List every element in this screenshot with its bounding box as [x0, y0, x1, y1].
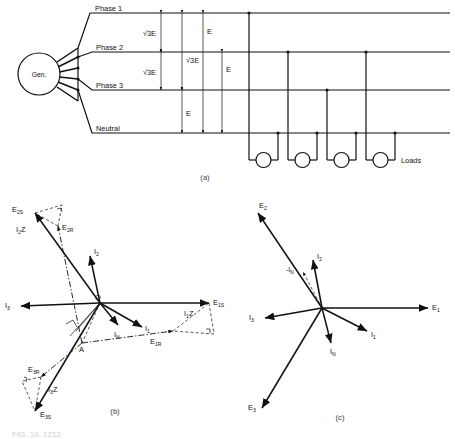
- right-angle-mark-2: [57, 208, 62, 212]
- tap-dot: [286, 50, 289, 53]
- drop-label-i2z: I2Z: [16, 225, 26, 235]
- phase-1-label: Phase 1: [95, 4, 122, 13]
- dimension-sqrt3e-p2-p3: √3E: [143, 52, 161, 90]
- figure-root: Gen. Phase 1 Phase 2: [0, 0, 455, 439]
- vector-label-e1r: E1R: [150, 337, 162, 347]
- dimension-label-e-2: E: [207, 27, 212, 36]
- vector-in-c: [322, 308, 331, 343]
- vector-label-i3-b: I3: [5, 301, 10, 311]
- dimension-e-p2-neutral: E: [222, 52, 231, 133]
- drop-label-i3z: I3Z: [48, 385, 58, 395]
- figure-bottom-caption: FIG. 10. 1212: [12, 430, 61, 439]
- right-angle-mark-4: [66, 320, 77, 327]
- vector-label-e1s: E1S: [213, 298, 225, 308]
- vector-e3r: [41, 343, 82, 377]
- drop-i2z-hyp: [35, 213, 58, 226]
- vector-label-e3r: E3R: [28, 365, 40, 375]
- load-circle: [256, 153, 271, 168]
- vector-e3s: [35, 303, 100, 411]
- diagram-a-group: Gen. Phase 1 Phase 2: [18, 4, 450, 183]
- phase-3-conductor: Phase 3: [78, 79, 450, 90]
- vector-label-i1-c: I1: [371, 330, 376, 340]
- vector-label-in-b: IN: [114, 330, 120, 340]
- load-circle: [373, 153, 388, 168]
- phase-2-label: Phase 2: [96, 43, 123, 52]
- dimension-e-p1-neutral: E: [203, 13, 212, 133]
- dimension-e-p3-neutral: E: [182, 90, 191, 133]
- dimension-sqrt3e-p1-p2: √3E: [143, 13, 161, 52]
- vector-label-i3-c: I3: [249, 313, 254, 323]
- bus-junction-dot: [77, 67, 80, 70]
- vector-label-e1-c: E1: [432, 303, 440, 313]
- neutral-label: Neutral: [96, 124, 120, 133]
- vector-label-e2s: E2S: [12, 205, 24, 215]
- right-angle-mark-3: [24, 377, 27, 382]
- vector-i1-b: [100, 303, 142, 327]
- vector-label-e3s: E3S: [40, 410, 52, 420]
- vector-i3-c: [265, 308, 322, 318]
- phase-1-conductor: Phase 1: [78, 4, 450, 49]
- neutral-conductor: Neutral: [78, 90, 450, 133]
- origin-label-b: O: [95, 293, 101, 302]
- vector-label-i2-c: I2: [317, 252, 322, 262]
- caption-a: (a): [200, 173, 210, 182]
- vector-label-e3-c: E3: [248, 403, 256, 413]
- dimension-label-sqrt3e-1: √3E: [143, 29, 156, 38]
- vector-label-i2-b: I2: [94, 247, 99, 257]
- tap-dot: [315, 131, 318, 134]
- load-branch-4: [364, 50, 396, 167]
- diagram-c-group: E1 E2 E3 I1 I2 I3 IN -IN (c): [248, 201, 440, 422]
- caption-b: (b): [110, 407, 120, 416]
- vector-label-in-c: IN: [330, 347, 336, 357]
- load-circle: [334, 153, 349, 168]
- diagram-b-group: E1S E1R I1Z E2S E2R I2Z E3S E3R I3Z I1: [5, 205, 225, 420]
- tap-dot: [364, 50, 367, 53]
- tap-dot: [247, 11, 250, 14]
- phase-3-label: Phase 3: [96, 81, 123, 90]
- right-angle-mark-1: [206, 329, 210, 333]
- drop-label-i1z: I1Z: [184, 309, 194, 319]
- vector-i1-c: [322, 308, 367, 331]
- vector-e2r: [58, 226, 82, 343]
- dimension-label-e-1: E: [186, 109, 191, 118]
- tap-dot: [354, 131, 357, 134]
- tap-dot: [276, 131, 279, 134]
- dimension-label-e-3: E: [226, 65, 231, 74]
- caption-c: (c): [336, 413, 345, 422]
- vector-i3-b: [21, 303, 100, 306]
- construction-line-2: [76, 303, 100, 331]
- loads-label: Loads: [401, 156, 421, 165]
- tap-dot: [325, 88, 328, 91]
- dimension-label-sqrt3e-3: √3E: [186, 56, 199, 65]
- vector-e3-c: [262, 308, 322, 408]
- vector-label-e2r: E2R: [62, 223, 74, 233]
- construction-o-to-a: [82, 303, 100, 343]
- vector-label-e2-c: E2: [259, 201, 267, 211]
- dimension-label-sqrt3e-2: √3E: [143, 68, 156, 77]
- vector-label-neg-in-c: -IN: [286, 266, 294, 275]
- load-branch-3: [325, 88, 357, 167]
- generator-label: Gen.: [32, 71, 47, 78]
- vector-label-i1-b: I1: [145, 324, 150, 334]
- load-branch-2: [286, 50, 318, 167]
- load-circle: [295, 153, 310, 168]
- phase-2-conductor: Phase 2: [78, 43, 450, 58]
- point-a-label: A: [79, 345, 84, 354]
- tap-dot: [393, 131, 396, 134]
- vector-in-b: [100, 303, 118, 325]
